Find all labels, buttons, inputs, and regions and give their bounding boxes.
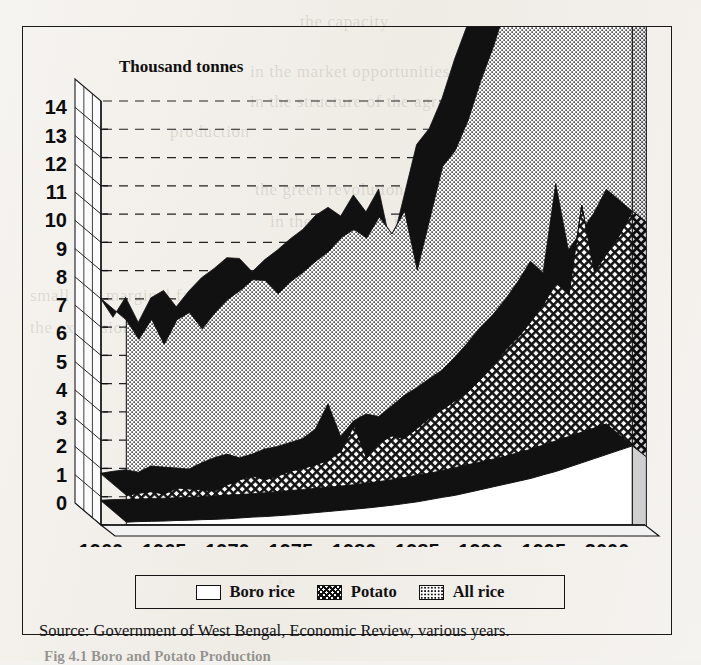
y-tick-label: 7 <box>56 294 67 316</box>
x-tick-label: 1995 <box>522 540 567 547</box>
figure-frame: Thousand tonnes <box>22 26 672 635</box>
x-tick-label: 1975 <box>269 540 314 547</box>
chart-plot-area: 0123456789101112131419601965197019751980… <box>23 27 669 547</box>
series-depth-face-all-rice <box>632 27 646 222</box>
chart-legend: Boro rice Potato All rice <box>135 575 565 609</box>
y-tick-label: 8 <box>56 266 67 288</box>
y-tick-label: 9 <box>56 238 67 260</box>
x-tick-label: 1965 <box>142 540 187 547</box>
source-note: Source: Government of West Bengal, Econo… <box>39 621 510 641</box>
y-tick-label: 12 <box>45 153 67 175</box>
legend-label-all-rice: All rice <box>453 582 505 602</box>
legend-swatch-boro-rice-icon <box>196 585 221 600</box>
y-tick-label: 11 <box>46 181 67 203</box>
legend-item-boro-rice: Boro rice <box>196 582 295 602</box>
x-tick-label: 1990 <box>458 540 503 547</box>
legend-item-potato: Potato <box>317 582 397 602</box>
series-depth-face-boro-rice <box>632 446 646 536</box>
x-tick-label: 1985 <box>395 540 440 547</box>
area-chart: 0123456789101112131419601965197019751980… <box>23 27 669 547</box>
x-tick-label: 1960 <box>79 540 124 547</box>
y-tick-label: 0 <box>56 492 67 514</box>
y-tick-label: 4 <box>56 379 68 401</box>
x-tick-label: 1970 <box>205 540 250 547</box>
legend-label-boro-rice: Boro rice <box>230 582 295 602</box>
x-tick-label: 1980 <box>332 540 377 547</box>
chart-floor <box>101 525 659 536</box>
y-tick-label: 13 <box>45 125 67 147</box>
legend-item-all-rice: All rice <box>419 582 505 602</box>
y-tick-label: 2 <box>56 435 67 457</box>
y-tick-label: 5 <box>56 351 67 373</box>
y-tick-label: 6 <box>56 322 67 344</box>
legend-swatch-potato-icon <box>317 585 342 600</box>
series-depth-face-potato <box>632 211 646 457</box>
y-tick-label: 3 <box>56 407 67 429</box>
figure-caption: Fig 4.1 Boro and Potato Production <box>44 648 271 665</box>
y-tick-label: 14 <box>45 96 68 118</box>
x-tick-label: 2000 <box>585 540 630 547</box>
legend-label-potato: Potato <box>351 582 397 602</box>
y-tick-label: 1 <box>56 464 67 486</box>
y-tick-label: 10 <box>45 209 67 231</box>
legend-swatch-all-rice-icon <box>419 585 444 600</box>
